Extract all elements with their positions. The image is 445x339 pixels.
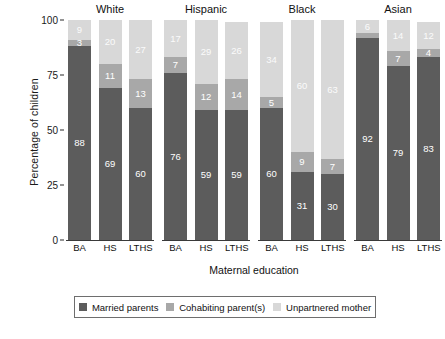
stacked-bar-chart: Percentage of children 100 75 50 25 0 Wh… <box>0 0 445 339</box>
bar-asian-lths[interactable]: 12483 <box>417 20 440 240</box>
y-tick-50: 50 <box>47 125 58 136</box>
legend-item-0[interactable]: Married parents <box>79 302 159 313</box>
x-tick-lths: LTHS <box>321 242 344 253</box>
segment-value-label: 88 <box>74 138 85 148</box>
legend-label: Married parents <box>92 302 159 313</box>
x-tick-hs: HS <box>387 242 410 253</box>
segment-married-parents[interactable]: 31 <box>291 172 314 240</box>
segment-unpartnered-mother[interactable]: 27 <box>129 20 152 79</box>
panel-bars: 345606093163730 <box>260 20 344 240</box>
segment-unpartnered-mother[interactable]: 17 <box>164 20 187 57</box>
segment-value-label: 6 <box>365 22 370 32</box>
panel-black: Black345606093163730BAHSLTHS <box>260 20 344 240</box>
segment-value-label: 29 <box>201 47 212 57</box>
segment-cohabiting-parent-s[interactable]: 7 <box>164 57 187 72</box>
y-tick-100: 100 <box>41 15 58 26</box>
bar-hispanic-hs[interactable]: 291259 <box>195 20 218 240</box>
segment-cohabiting-parent-s[interactable]: 7 <box>321 159 344 174</box>
bar-asian-ba[interactable]: 692 <box>356 20 379 240</box>
bar-white-lths[interactable]: 271360 <box>129 20 152 240</box>
x-tick-hs: HS <box>291 242 314 253</box>
panel-baseline <box>258 240 346 242</box>
segment-value-label: 79 <box>393 148 404 158</box>
segment-value-label: 63 <box>327 85 338 95</box>
legend-swatch-icon <box>79 303 87 311</box>
segment-value-label: 83 <box>423 144 434 154</box>
panel-baseline <box>162 240 250 242</box>
x-tick-lths: LTHS <box>129 242 152 253</box>
segment-value-label: 69 <box>105 159 116 169</box>
bar-black-ba[interactable]: 34560 <box>260 20 283 240</box>
segment-married-parents[interactable]: 59 <box>225 110 248 240</box>
panel-white: White9388201169271360BAHSLTHS <box>68 20 152 240</box>
panel-asian: Asian6921477912483BAHSLTHS <box>356 20 440 240</box>
segment-unpartnered-mother[interactable]: 29 <box>195 20 218 84</box>
segment-cohabiting-parent-s[interactable]: 7 <box>387 51 410 66</box>
segment-cohabiting-parent-s[interactable]: 13 <box>129 79 152 108</box>
segment-married-parents[interactable]: 69 <box>99 88 122 240</box>
segment-value-label: 14 <box>393 31 404 41</box>
segment-married-parents[interactable]: 60 <box>260 108 283 240</box>
segment-unpartnered-mother[interactable]: 26 <box>225 22 248 79</box>
segment-cohabiting-parent-s[interactable]: 12 <box>195 84 218 110</box>
bar-white-ba[interactable]: 9388 <box>68 20 91 240</box>
segment-unpartnered-mother[interactable]: 60 <box>291 20 314 152</box>
segment-unpartnered-mother[interactable]: 6 <box>356 20 379 33</box>
segment-value-label: 76 <box>170 152 181 162</box>
segment-value-label: 5 <box>269 98 274 108</box>
bar-black-lths[interactable]: 63730 <box>321 20 344 240</box>
segment-value-label: 59 <box>231 170 242 180</box>
segment-married-parents[interactable]: 60 <box>129 108 152 240</box>
segment-cohabiting-parent-s[interactable]: 5 <box>260 97 283 108</box>
panel-title-white: White <box>68 3 152 15</box>
segment-married-parents[interactable]: 83 <box>417 57 440 240</box>
x-tick-row: BAHSLTHS <box>356 242 440 253</box>
segment-value-label: 17 <box>170 34 181 44</box>
panel-bars: 17776291259261459 <box>164 20 248 240</box>
segment-unpartnered-mother[interactable]: 63 <box>321 20 344 159</box>
bar-hispanic-lths[interactable]: 261459 <box>225 20 248 240</box>
segment-married-parents[interactable]: 88 <box>68 46 91 240</box>
segment-unpartnered-mother[interactable]: 14 <box>387 20 410 51</box>
segment-value-label: 7 <box>173 60 178 70</box>
segment-value-label: 60 <box>266 169 277 179</box>
bar-white-hs[interactable]: 201169 <box>99 20 122 240</box>
segment-value-label: 14 <box>231 90 242 100</box>
segment-cohabiting-parent-s[interactable]: 14 <box>225 79 248 110</box>
x-tick-hs: HS <box>195 242 218 253</box>
plot-area: White9388201169271360BAHSLTHSHispanic177… <box>68 20 440 240</box>
bar-hispanic-ba[interactable]: 17776 <box>164 20 187 240</box>
segment-married-parents[interactable]: 59 <box>195 110 218 240</box>
segment-unpartnered-mother[interactable]: 34 <box>260 22 283 97</box>
segment-unpartnered-mother[interactable]: 20 <box>99 20 122 64</box>
segment-married-parents[interactable]: 76 <box>164 73 187 240</box>
segment-cohabiting-parent-s[interactable]: 11 <box>99 64 122 88</box>
bar-black-hs[interactable]: 60931 <box>291 20 314 240</box>
segment-value-label: 30 <box>327 202 338 212</box>
legend-label: Unpartnered mother <box>286 302 371 313</box>
segment-value-label: 12 <box>201 92 212 102</box>
segment-married-parents[interactable]: 92 <box>356 38 379 240</box>
segment-value-label: 13 <box>135 89 146 99</box>
legend-item-1[interactable]: Cohabiting parent(s) <box>166 302 265 313</box>
legend-swatch-icon <box>273 303 281 311</box>
x-axis-title: Maternal education <box>68 264 440 276</box>
panel-title-asian: Asian <box>356 3 440 15</box>
segment-value-label: 12 <box>423 31 434 41</box>
segment-value-label: 7 <box>395 54 400 64</box>
segment-married-parents[interactable]: 79 <box>387 66 410 240</box>
segment-unpartnered-mother[interactable]: 12 <box>417 22 440 48</box>
segment-value-label: 9 <box>299 157 304 167</box>
x-tick-row: BAHSLTHS <box>260 242 344 253</box>
segment-value-label: 26 <box>231 46 242 56</box>
x-tick-ba: BA <box>68 242 91 253</box>
segment-married-parents[interactable]: 30 <box>321 174 344 240</box>
legend-item-2[interactable]: Unpartnered mother <box>273 302 371 313</box>
segment-cohabiting-parent-s[interactable]: 3 <box>68 40 91 47</box>
segment-value-label: 7 <box>330 162 335 172</box>
segment-cohabiting-parent-s[interactable]: 4 <box>417 49 440 58</box>
x-tick-lths: LTHS <box>417 242 440 253</box>
x-tick-row: BAHSLTHS <box>164 242 248 253</box>
bar-asian-hs[interactable]: 14779 <box>387 20 410 240</box>
segment-cohabiting-parent-s[interactable]: 9 <box>291 152 314 172</box>
